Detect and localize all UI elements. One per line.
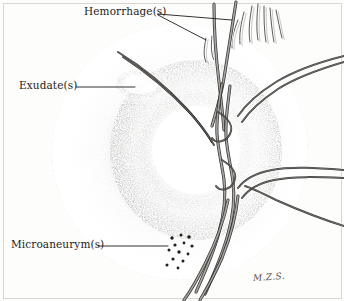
microaneurysm-dot-2 — [180, 234, 183, 237]
microaneurysm-dot-12 — [166, 264, 169, 267]
retinal-fundus-figure: Hemorrhage(s) Exudate(s) Microaneurym(s)… — [0, 0, 344, 301]
label-hemorrhage: Hemorrhage(s) — [84, 6, 167, 17]
flame-3 — [264, 6, 266, 42]
microaneurysm-dot-5 — [183, 242, 186, 245]
microaneurysm-dot-4 — [173, 243, 176, 246]
label-exudate: Exudate(s) — [19, 80, 77, 91]
microaneurysm-dot-9 — [187, 253, 190, 256]
microaneurysm-dot-1 — [170, 236, 173, 239]
microaneurysm-dot-6 — [190, 244, 193, 247]
hemorrhage-leader-upper — [158, 14, 232, 20]
microaneurysm-dot-13 — [177, 267, 180, 270]
microaneurysm-dot-7 — [168, 249, 171, 252]
flame-2-shadow — [259, 6, 260, 42]
flame-4-shadow — [272, 10, 276, 44]
microaneurysm-dot-3 — [187, 235, 191, 239]
flame-1-shadow — [251, 8, 254, 44]
flame-2 — [257, 4, 258, 40]
microaneurysm-dot-11 — [182, 260, 185, 263]
flame-3-shadow — [266, 8, 268, 44]
flame-5 — [276, 10, 282, 38]
label-microaneurysm: Microaneurym(s) — [11, 239, 104, 250]
microaneurysm-dot-10 — [171, 257, 174, 260]
fundus-illustration — [0, 0, 344, 301]
microaneurysm-dot-8 — [177, 250, 180, 253]
